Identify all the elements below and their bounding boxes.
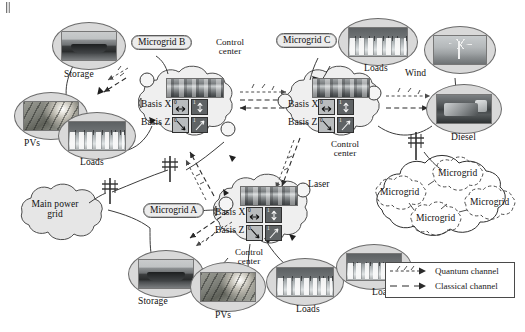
control-center-label-line2: center (238, 256, 261, 266)
other-microgrid-label-2: Microgrid (380, 188, 419, 198)
main-grid-label-line2: grid (47, 209, 63, 219)
other-microgrid-label-3: Microgrid (470, 198, 509, 208)
classical-channel-sample-icon (389, 279, 431, 292)
asset-label-storage-a: Storage (138, 297, 168, 307)
basis-x-state-1-a: 1 (265, 207, 282, 223)
basis-x-label-b: Basis X (141, 100, 172, 110)
legend-label-classical: Classical channel (435, 281, 498, 291)
basis-z-state-0-c: 0 (318, 117, 335, 133)
microgrid-b-name-pill[interactable]: Microgrid B (131, 35, 192, 50)
basis-z-label-b: Basis Z (141, 118, 170, 128)
main-power-grid-label: Main power grid (18, 200, 92, 220)
basis-x-state-0-b: 0 (172, 99, 189, 115)
circle-node-icon (140, 73, 154, 87)
asset-image-diesel-c (426, 84, 502, 134)
control-center-label-b: Control center (207, 38, 253, 57)
legend-label-quantum: Quantum channel (435, 266, 499, 276)
control-center-photo-c (312, 78, 370, 98)
figure-canvas: 0 1 0 1 0 1 0 1 0 1 0 1 (0, 0, 525, 332)
asset-image-wind-c (424, 26, 496, 74)
basis-z-state-0-a: 0 (246, 225, 263, 241)
legend-row-quantum: Quantum channel (386, 263, 514, 278)
basis-z-label-a: Basis Z (215, 226, 244, 236)
basis-z-state-1-c: 1 (337, 117, 354, 133)
control-center-photo-a (240, 186, 298, 206)
basis-z-state-1-a: 1 (265, 225, 282, 241)
other-microgrid-label-4: Microgrid (416, 214, 455, 224)
basis-x-state-1-c: 1 (337, 99, 354, 115)
circle-node-icon (221, 122, 235, 136)
basis-x-label-c: Basis X (288, 100, 319, 110)
control-center-photo-b (166, 78, 224, 98)
laser-label: Laser (308, 180, 330, 190)
basis-z-state-1-b: 1 (191, 117, 208, 133)
basis-z-label-c: Basis Z (288, 118, 317, 128)
control-center-label-c: Control center (322, 140, 368, 159)
asset-image-loads-a1 (266, 258, 344, 306)
other-microgrid-label-1: Microgrid (438, 169, 477, 179)
microgrid-a-name-pill[interactable]: Microgrid A (143, 203, 204, 218)
pylon-icon (408, 132, 424, 160)
asset-label-pvs-b: PVs (24, 139, 40, 149)
asset-image-storage-b (52, 22, 126, 70)
quantum-channel-sample-icon (389, 264, 431, 277)
legend-row-classical: Classical channel (386, 278, 514, 293)
asset-label-loads-c: Loads (364, 64, 388, 74)
basis-z-state-0-b: 0 (172, 117, 189, 133)
basis-x-state-0-a: 0 (246, 207, 263, 223)
asset-label-wind-c: Wind (405, 69, 426, 79)
basis-x-state-0-c: 0 (318, 99, 335, 115)
control-center-label-a: Control center (226, 248, 272, 267)
microgrid-c-name-pill[interactable]: Microgrid C (276, 33, 337, 48)
asset-label-diesel-c: Diesel (451, 133, 476, 143)
asset-image-loads-b (58, 112, 136, 160)
asset-label-pvs-a: PVs (215, 311, 231, 321)
control-center-label-line2: center (334, 148, 357, 158)
legend-box: Quantum channel Classical channel (385, 262, 515, 298)
pylon-icon (162, 156, 178, 182)
basis-x-state-1-b: 1 (191, 99, 208, 115)
asset-label-loads-b: Loads (80, 158, 104, 168)
basis-x-label-a: Basis X (215, 208, 246, 218)
asset-image-loads-c (338, 18, 418, 66)
asset-label-loads-a1: Loads (296, 305, 320, 315)
control-center-label-line2: center (219, 46, 242, 56)
asset-image-pvs-a (190, 262, 266, 312)
asset-label-storage-b: Storage (64, 70, 94, 80)
main-grid-label-line1: Main power (31, 199, 78, 209)
